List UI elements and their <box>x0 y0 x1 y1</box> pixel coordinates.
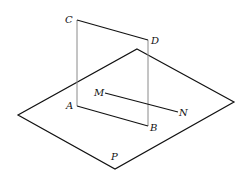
plane-p <box>18 49 234 169</box>
label-b: B <box>149 122 157 133</box>
label-a: A <box>65 100 73 111</box>
label-m: M <box>93 87 105 98</box>
edge-ab <box>77 106 148 126</box>
label-p: P <box>110 151 118 162</box>
label-n: N <box>178 107 189 118</box>
label-d: D <box>150 35 159 46</box>
label-c: C <box>65 14 73 25</box>
geometry-diagram: C D A B M N P <box>0 0 247 183</box>
segment-mn <box>105 93 178 112</box>
edge-cd <box>77 20 148 40</box>
